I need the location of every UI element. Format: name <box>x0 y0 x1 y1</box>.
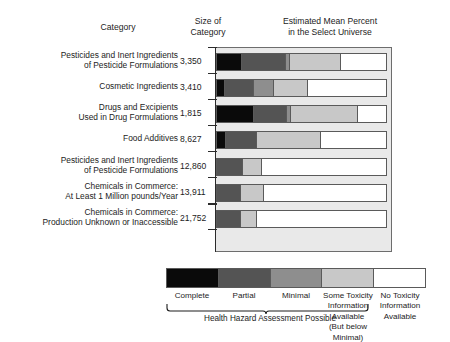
bar-segment <box>240 211 257 227</box>
bar-segment <box>290 106 357 122</box>
category-label-line1: Chemicals in Commerce: <box>2 181 178 191</box>
stacked-bar <box>216 210 387 228</box>
bar-segment <box>217 159 242 175</box>
bar-segment <box>253 106 285 122</box>
y-axis-tick <box>208 99 217 100</box>
bar-segment <box>224 80 253 96</box>
bar-segment <box>261 159 386 175</box>
stacked-bar <box>216 184 387 202</box>
category-label: Chemicals in Commerce:At Least 1 Million… <box>2 181 178 201</box>
y-axis-tick <box>208 73 217 74</box>
category-label: Food Additives <box>2 133 178 143</box>
category-size-value: 3,410 <box>180 82 216 92</box>
y-axis-tick <box>208 47 217 48</box>
legend-swatch <box>321 269 373 287</box>
legend-swatch <box>218 269 270 287</box>
category-size-value: 13,911 <box>180 187 216 197</box>
bar-segment <box>256 132 320 148</box>
chart-container: Category Size of Category Estimated Mean… <box>0 0 450 342</box>
legend-label-line: No Toxicity <box>365 291 435 301</box>
category-label-line1: Chemicals in Commerce: <box>2 207 178 217</box>
stacked-bar <box>216 79 387 97</box>
category-label: Cosmetic Ingredients <box>2 81 178 91</box>
health-hazard-caption: Health Hazard Assessment Possible <box>150 314 390 323</box>
category-label-line1: Pesticides and Inert Ingredients <box>2 155 178 165</box>
category-label-line2: of Pesticide Formulations <box>2 165 178 175</box>
bar-segment <box>273 80 307 96</box>
bar-segment <box>263 185 386 201</box>
legend-swatch-strip <box>166 268 426 288</box>
y-axis-tick <box>208 151 217 152</box>
y-axis-tick <box>208 125 217 126</box>
bar-segment <box>217 80 224 96</box>
category-label: Pesticides and Inert Ingredientsof Pesti… <box>2 155 178 175</box>
category-label-line2: Used in Drug Formulations <box>2 112 178 122</box>
bar-segment <box>253 80 273 96</box>
column-header-percent-line1: Estimated Mean Percent <box>250 16 410 27</box>
category-label-line2: Production Unknown or Inaccessible <box>2 217 178 227</box>
bar-segment <box>225 132 256 148</box>
stacked-bar <box>216 131 387 149</box>
category-label: Drugs and ExcipientsUsed in Drug Formula… <box>2 102 178 122</box>
column-header-percent: Estimated Mean Percent in the Select Uni… <box>250 16 410 37</box>
column-header-percent-line2: in the Select Universe <box>250 27 410 38</box>
column-header-size: Size of Category <box>180 16 236 37</box>
column-header-size-line1: Size of <box>180 16 236 27</box>
column-header-size-line2: Category <box>180 27 236 38</box>
category-size-value: 3,350 <box>180 56 216 66</box>
stacked-bar <box>216 158 387 176</box>
category-label: Chemicals in Commerce:Production Unknown… <box>2 207 178 227</box>
bar-segment <box>256 211 386 227</box>
category-label-line2: At Least 1 Million pounds/Year <box>2 191 178 201</box>
legend-label-line: (But below Minimal) <box>313 322 383 342</box>
bar-segment <box>241 54 285 70</box>
bar-segment <box>217 132 225 148</box>
legend-swatch <box>167 269 218 287</box>
category-label-line1: Cosmetic Ingredients <box>2 81 178 91</box>
y-axis-tick <box>208 204 217 205</box>
column-header-category-text: Category <box>101 22 136 32</box>
bar-segment <box>340 54 386 70</box>
category-label-line2: of Pesticide Formulations <box>2 60 178 70</box>
bar-segment <box>217 185 240 201</box>
column-header-category: Category <box>58 22 178 33</box>
bar-segment <box>320 132 386 148</box>
category-size-value: 1,815 <box>180 108 216 118</box>
category-label-line1: Drugs and Excipients <box>2 102 178 112</box>
category-label-line1: Pesticides and Inert Ingredients <box>2 50 178 60</box>
legend-swatch <box>270 269 322 287</box>
category-size-value: 8,627 <box>180 134 216 144</box>
legend-swatch <box>373 269 425 287</box>
bar-segment <box>242 159 261 175</box>
bar-segment <box>217 106 253 122</box>
y-axis-tick <box>208 177 217 178</box>
stacked-bar <box>216 53 387 71</box>
category-size-value: 12,860 <box>180 161 216 171</box>
category-label-line1: Food Additives <box>2 133 178 143</box>
bar-segment <box>357 106 386 122</box>
bar-segment <box>217 54 241 70</box>
bar-segment <box>217 211 240 227</box>
category-size-value: 21,752 <box>180 213 216 223</box>
bar-segment <box>240 185 263 201</box>
stacked-bar <box>216 105 387 123</box>
category-label: Pesticides and Inert Ingredientsof Pesti… <box>2 50 178 70</box>
legend-label-line: Information <box>365 301 435 311</box>
bar-segment <box>307 80 386 96</box>
bar-segment <box>289 54 340 70</box>
y-axis-tick <box>208 229 217 230</box>
